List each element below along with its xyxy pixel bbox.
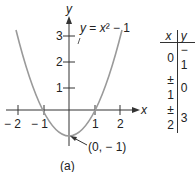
vertex-label: (0, − 1): [88, 141, 126, 153]
x-tick-2: 2: [117, 118, 124, 130]
x-tick-neg2: − 2: [4, 118, 21, 130]
x-tick-neg1: − 1: [31, 118, 48, 130]
table-header-x: x: [160, 30, 177, 43]
table-row: ± 1 0: [160, 73, 195, 103]
y-axis-label: y: [66, 3, 72, 15]
values-table: x y 0 − 1 ± 1 0 ± 2 3: [160, 30, 195, 133]
vertex-arrow-icon: [70, 136, 77, 141]
y-tick-2: 2: [56, 56, 63, 68]
x-tick-1: 1: [92, 118, 99, 130]
y-tick-1: 1: [56, 82, 63, 94]
x-axis-label: x: [141, 104, 147, 116]
table-header-y: y: [177, 30, 195, 43]
y-tick-3: 3: [56, 30, 63, 42]
equation-label: y = x² − 1: [80, 22, 130, 34]
figure-caption: (a): [60, 160, 75, 172]
table-row: 0 − 1: [160, 43, 195, 74]
y-axis-arrow-icon: [66, 16, 72, 24]
x-axis-arrow-icon: [132, 107, 140, 113]
table-row: ± 2 3: [160, 103, 195, 133]
